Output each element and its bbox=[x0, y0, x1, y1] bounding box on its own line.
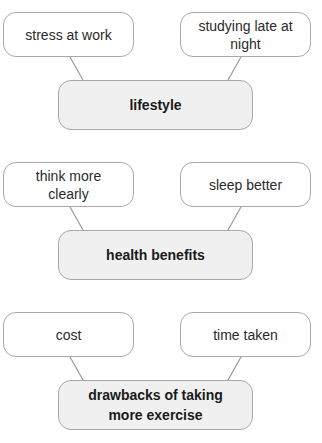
node-label: time taken bbox=[207, 326, 284, 344]
connector-lines bbox=[0, 0, 322, 443]
hub-label: drawbacks of taking more exercise bbox=[70, 385, 242, 425]
hub-label: health benefits bbox=[100, 246, 211, 264]
node-sleep-better: sleep better bbox=[180, 162, 311, 207]
node-label: studying late at night bbox=[190, 17, 302, 53]
node-label: sleep better bbox=[203, 176, 288, 194]
hub-lifestyle: lifestyle bbox=[58, 80, 253, 130]
node-label: stress at work bbox=[19, 26, 117, 44]
node-think-more-clearly: think more clearly bbox=[3, 162, 134, 207]
hub-drawbacks: drawbacks of taking more exercise bbox=[58, 380, 253, 430]
hub-health-benefits: health benefits bbox=[58, 230, 253, 280]
node-stress-at-work: stress at work bbox=[3, 12, 134, 57]
hub-label: lifestyle bbox=[123, 96, 187, 114]
node-studying-late-at-night: studying late at night bbox=[180, 12, 311, 57]
node-label: think more clearly bbox=[23, 167, 115, 203]
node-time-taken: time taken bbox=[180, 312, 311, 357]
node-label: cost bbox=[50, 326, 88, 344]
node-cost: cost bbox=[3, 312, 134, 357]
